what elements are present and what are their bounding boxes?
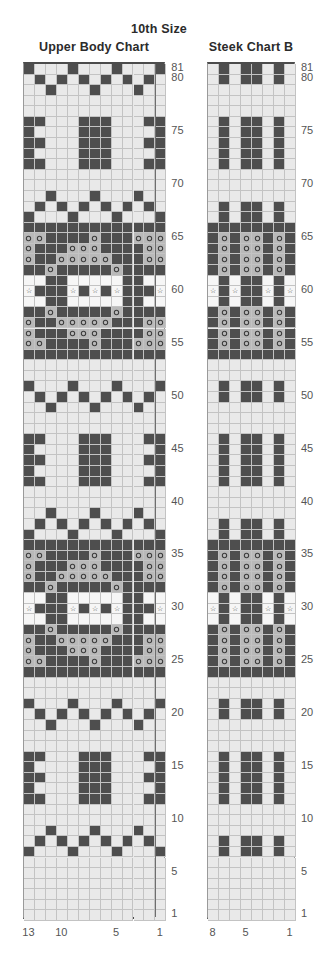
stitch-cell <box>208 826 219 837</box>
stitch-cell <box>123 614 134 625</box>
stitch-cell <box>144 582 155 593</box>
stitch-cell-circle <box>252 625 263 636</box>
stitch-cell <box>134 667 145 678</box>
stitch-cell <box>90 424 101 435</box>
stitch-cell <box>101 223 112 234</box>
stitch-cell <box>68 117 79 128</box>
stitch-cell <box>144 604 155 615</box>
stitch-cell <box>46 434 57 445</box>
stitch-cell <box>144 392 155 403</box>
stitch-cell-circle <box>24 318 35 329</box>
stitch-cell <box>35 826 46 837</box>
stitch-cell <box>24 519 35 530</box>
stitch-cell <box>101 276 112 287</box>
stitch-cell <box>123 720 134 731</box>
stitch-cell <box>112 879 123 890</box>
stitch-cell <box>134 85 145 96</box>
stitch-cell <box>252 720 263 731</box>
stitch-cell <box>57 180 68 191</box>
circle-icon <box>155 551 165 561</box>
stitch-cell <box>46 688 57 699</box>
stitch-cell <box>35 276 46 287</box>
stitch-cell <box>68 455 79 466</box>
stitch-cell <box>101 202 112 213</box>
stitch-cell <box>24 773 35 784</box>
stitch-cell <box>123 254 134 265</box>
stitch-cell <box>68 667 79 678</box>
circle-icon <box>24 635 34 645</box>
stitch-cell <box>285 381 296 392</box>
stitch-cell <box>79 858 90 869</box>
stitch-cell <box>68 900 79 911</box>
stitch-cell-circle <box>90 329 101 340</box>
stitch-cell <box>144 149 155 160</box>
stitch-cell <box>252 96 263 107</box>
stitch-cell <box>252 371 263 382</box>
stitch-cell <box>46 202 57 213</box>
stitch-cell-circle <box>24 339 35 350</box>
stitch-cell <box>219 794 230 805</box>
stitch-cell <box>134 265 145 276</box>
stitch-cell <box>123 667 134 678</box>
stitch-cell <box>285 127 296 138</box>
stitch-cell <box>285 180 296 191</box>
stitch-cell <box>219 741 230 752</box>
stitch-cell <box>208 889 219 900</box>
stitch-cell <box>219 106 230 117</box>
stitch-cell-circle <box>155 318 166 329</box>
stitch-cell <box>57 96 68 107</box>
stitch-cell <box>35 561 46 572</box>
stitch-cell <box>155 223 166 234</box>
stitch-cell <box>230 762 241 773</box>
stitch-cell-circle <box>241 635 252 646</box>
stitch-cell <box>35 265 46 276</box>
stitch-cell <box>134 858 145 869</box>
stitch-cell <box>274 815 285 826</box>
stitch-cell <box>112 540 123 551</box>
stitch-cell <box>219 688 230 699</box>
stitch-cell <box>101 191 112 202</box>
stitch-cell-circle <box>57 572 68 583</box>
stitch-cell <box>101 233 112 244</box>
stitch-cell <box>123 773 134 784</box>
stitch-cell <box>134 466 145 477</box>
circle-icon <box>252 318 262 328</box>
stitch-cell <box>112 329 123 340</box>
stitch-cell-circle <box>219 635 230 646</box>
stitch-cell <box>57 731 68 742</box>
stitch-cell <box>123 815 134 826</box>
stitch-cell <box>123 85 134 96</box>
stitch-cell <box>112 445 123 456</box>
stitch-cell <box>112 350 123 361</box>
stitch-cell <box>155 688 166 699</box>
stitch-cell <box>208 276 219 287</box>
stitch-cell <box>285 551 296 562</box>
stitch-cell <box>35 815 46 826</box>
stitch-cell <box>123 709 134 720</box>
stitch-cell <box>252 434 263 445</box>
stitch-cell <box>68 783 79 794</box>
stitch-cell <box>263 551 274 562</box>
stitch-cell <box>285 477 296 488</box>
stitch-cell-circle <box>24 329 35 340</box>
stitch-cell-circle <box>79 572 90 583</box>
circle-icon <box>252 656 262 666</box>
stitch-cell <box>90 498 101 509</box>
stitch-cell <box>263 159 274 170</box>
stitch-cell <box>123 339 134 350</box>
stitch-cell <box>112 392 123 403</box>
stitch-cell <box>208 688 219 699</box>
stitch-cell <box>79 96 90 107</box>
stitch-cell <box>46 741 57 752</box>
stitch-cell <box>24 455 35 466</box>
stitch-cell <box>35 434 46 445</box>
stitch-cell <box>79 455 90 466</box>
stitch-cell <box>35 286 46 297</box>
circle-icon <box>144 646 154 656</box>
stitch-cell <box>144 381 155 392</box>
stitch-cell <box>57 276 68 287</box>
stitch-cell <box>123 286 134 297</box>
stitch-cell <box>134 191 145 202</box>
stitch-cell <box>155 530 166 541</box>
circle-icon <box>274 582 284 592</box>
